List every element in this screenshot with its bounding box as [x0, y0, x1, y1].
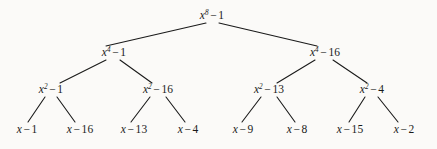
tree-leaf-node: x−13	[121, 124, 148, 136]
tree-edge	[378, 97, 398, 122]
tree-edge	[28, 97, 45, 122]
node-constant: 4	[192, 123, 198, 135]
tree-internal-node: x4−16	[310, 47, 340, 59]
node-constant: 16	[82, 123, 94, 135]
node-operator: −	[126, 123, 136, 135]
node-exponent: 8	[205, 9, 209, 17]
tree-internal-node: x2−4	[360, 84, 384, 96]
node-constant: 8	[301, 123, 307, 135]
node-exponent: 2	[365, 83, 369, 91]
tree-edge	[166, 97, 185, 122]
node-constant: 16	[328, 46, 340, 58]
node-constant: 13	[272, 83, 284, 95]
node-exponent: 4	[107, 46, 111, 54]
tree-internal-node: x4−1	[102, 47, 126, 59]
node-constant: 4	[378, 83, 384, 95]
tree-leaf-node: x−15	[337, 124, 364, 136]
tree-leaf-node: x−4	[178, 124, 199, 136]
node-constant: 1	[120, 46, 126, 58]
tree-edges-layer	[0, 0, 437, 149]
node-operator: −	[152, 83, 162, 95]
node-constant: 9	[247, 123, 253, 135]
polynomial-factorization-tree-figure: x8−1x4−1x4−16x2−1x2−16x2−13x2−4x−1x−16x−…	[0, 0, 437, 149]
tree-internal-node: x2−16	[143, 84, 173, 96]
tree-leaf-node: x−8	[287, 124, 308, 136]
node-operator: −	[72, 123, 82, 135]
node-exponent: 2	[44, 83, 48, 91]
tree-edge	[131, 97, 150, 122]
tree-edge	[219, 23, 317, 46]
node-constant: 1	[31, 123, 37, 135]
tree-internal-node: x2−1	[39, 84, 63, 96]
node-operator: −	[292, 123, 302, 135]
node-constant: 1	[218, 9, 224, 21]
tree-leaf-node: x−16	[67, 124, 94, 136]
node-operator: −	[238, 123, 248, 135]
tree-edge	[277, 60, 315, 83]
tree-leaf-node: x−1	[17, 124, 38, 136]
node-constant: 15	[352, 123, 364, 135]
node-constant: 16	[161, 83, 173, 95]
tree-leaf-node: x−2	[394, 124, 415, 136]
node-operator: −	[263, 83, 273, 95]
node-exponent: 2	[259, 83, 263, 91]
tree-edge	[333, 60, 367, 83]
node-operator: −	[48, 83, 58, 95]
tree-edge	[60, 60, 106, 83]
tree-edge	[277, 97, 295, 122]
tree-root-node: x8−1	[200, 10, 224, 22]
node-operator: −	[209, 9, 219, 21]
tree-internal-node: x2−13	[254, 84, 284, 96]
node-operator: −	[111, 46, 121, 58]
tree-edge	[57, 97, 75, 122]
tree-edge	[349, 97, 365, 122]
node-constant: 2	[408, 123, 414, 135]
node-operator: −	[399, 123, 409, 135]
node-exponent: 2	[148, 83, 152, 91]
node-operator: −	[342, 123, 352, 135]
node-operator: −	[319, 46, 329, 58]
node-operator: −	[369, 83, 379, 95]
node-constant: 1	[57, 83, 63, 95]
tree-edge	[242, 97, 261, 122]
tree-edge	[120, 60, 152, 83]
node-constant: 13	[136, 123, 148, 135]
tree-leaf-node: x−9	[233, 124, 254, 136]
node-operator: −	[22, 123, 32, 135]
node-operator: −	[183, 123, 193, 135]
tree-edge	[106, 23, 206, 46]
node-exponent: 4	[315, 46, 319, 54]
